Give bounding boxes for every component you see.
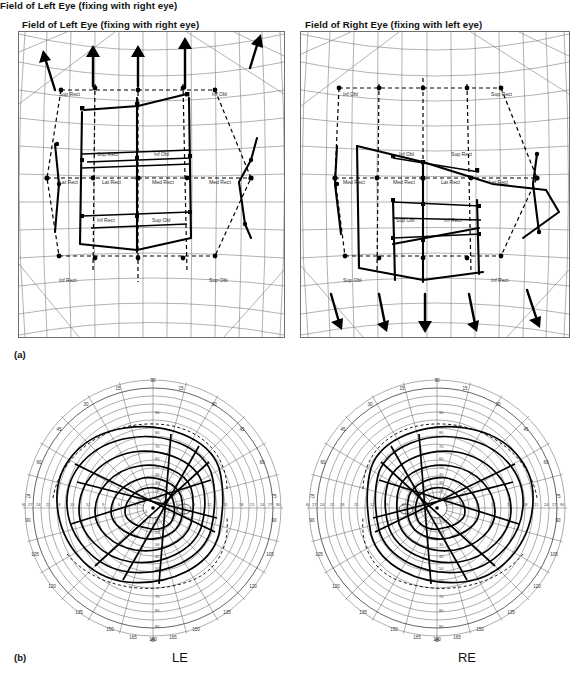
svg-text:6: 6 — [118, 502, 120, 507]
svg-text:75: 75 — [555, 494, 561, 499]
svg-text:75: 75 — [309, 494, 315, 499]
field-left-eye-chart[interactable]: Sup Rect Inf Obl Sup Rect Inf Obl Lat Re… — [18, 31, 285, 338]
svg-text:70: 70 — [439, 444, 444, 449]
svg-text:9: 9 — [193, 502, 195, 507]
svg-text:12: 12 — [491, 502, 495, 507]
svg-text:120: 120 — [533, 584, 541, 589]
polar-chart-right-eye[interactable]: 15 15 30 30 45 45 60 60 75 75 90 90 105 … — [306, 372, 568, 644]
svg-text:21: 21 — [46, 502, 50, 507]
svg-text:Inf Rect: Inf Rect — [491, 277, 509, 283]
panel-b-label: (b) — [14, 652, 26, 663]
svg-text:12: 12 — [207, 502, 211, 507]
svg-text:Lat Rect: Lat Rect — [489, 179, 509, 185]
svg-text:21: 21 — [534, 502, 538, 507]
svg-text:135: 135 — [75, 610, 83, 615]
svg-text:15: 15 — [70, 502, 74, 507]
svg-text:80: 80 — [155, 608, 160, 613]
svg-text:75: 75 — [271, 494, 277, 499]
panel-a-left-title: Field of Left Eye (fixing with right eye… — [0, 0, 177, 11]
svg-text:90: 90 — [276, 502, 281, 507]
svg-text:165: 165 — [129, 635, 137, 640]
svg-text:9: 9 — [102, 502, 104, 507]
svg-text:Lat Rect: Lat Rect — [441, 179, 461, 185]
svg-text:Inf Rect: Inf Rect — [97, 217, 115, 223]
svg-text:120: 120 — [249, 584, 257, 589]
svg-text:90: 90 — [271, 518, 277, 523]
field-left-eye-title: Field of Left Eye (fixing with right eye… — [22, 19, 199, 30]
svg-text:90: 90 — [439, 410, 444, 415]
svg-text:90: 90 — [155, 624, 160, 629]
svg-text:18: 18 — [56, 502, 60, 507]
svg-text:70: 70 — [439, 594, 444, 599]
svg-text:60: 60 — [320, 460, 326, 465]
svg-text:45: 45 — [340, 427, 346, 432]
svg-text:3: 3 — [445, 502, 447, 507]
svg-text:Sup Rect: Sup Rect — [491, 91, 513, 97]
svg-text:Inf Obl: Inf Obl — [154, 151, 169, 157]
svg-text:27: 27 — [28, 502, 32, 507]
svg-text:80: 80 — [155, 430, 160, 435]
svg-text:15: 15 — [178, 386, 184, 391]
svg-text:Sup Obl: Sup Obl — [209, 277, 227, 283]
svg-text:Sup Obl: Sup Obl — [343, 277, 361, 283]
svg-text:Sup Obl: Sup Obl — [152, 217, 170, 223]
svg-text:3: 3 — [134, 502, 136, 507]
svg-text:150: 150 — [106, 627, 114, 632]
svg-text:90: 90 — [560, 502, 565, 507]
svg-text:105: 105 — [550, 552, 558, 557]
svg-text:30: 30 — [439, 542, 444, 547]
svg-text:18: 18 — [239, 502, 243, 507]
svg-text:80: 80 — [439, 430, 444, 435]
svg-text:165: 165 — [413, 635, 421, 640]
svg-text:Med Rect: Med Rect — [152, 179, 174, 185]
svg-text:90: 90 — [309, 518, 315, 523]
svg-text:Inf Obl: Inf Obl — [399, 151, 414, 157]
svg-text:6: 6 — [402, 502, 404, 507]
svg-text:15: 15 — [223, 502, 227, 507]
svg-text:90: 90 — [439, 624, 444, 629]
svg-text:30: 30 — [367, 402, 373, 407]
svg-text:6: 6 — [461, 502, 463, 507]
svg-text:50: 50 — [439, 566, 444, 571]
polar-chart-left-eye[interactable]: 15 15 30 30 45 45 60 60 75 75 90 90 105 … — [22, 372, 284, 644]
svg-text:40: 40 — [439, 554, 444, 559]
svg-text:9: 9 — [386, 502, 388, 507]
svg-text:12: 12 — [370, 502, 374, 507]
svg-text:45: 45 — [239, 427, 245, 432]
svg-text:60: 60 — [36, 460, 42, 465]
svg-text:Sup Rect: Sup Rect — [59, 91, 81, 97]
field-right-eye-chart[interactable]: Inf Obl Sup Rect Inf Obl Sup Rect Med Re… — [300, 31, 570, 338]
svg-text:105: 105 — [266, 552, 274, 557]
svg-text:40: 40 — [155, 472, 160, 477]
theta-symbol-left: Θ — [151, 637, 156, 643]
svg-text:27: 27 — [312, 502, 316, 507]
svg-text:105: 105 — [315, 552, 323, 557]
svg-text:9: 9 — [477, 502, 479, 507]
svg-text:90: 90 — [150, 378, 156, 383]
svg-text:3: 3 — [161, 502, 163, 507]
field-right-eye-title: Field of Right Eye (fixing with left eye… — [305, 19, 482, 30]
left-eye-field-svg: Sup Rect Inf Obl Sup Rect Inf Obl Lat Re… — [19, 32, 284, 337]
svg-text:18: 18 — [340, 502, 344, 507]
svg-text:Inf Rect: Inf Rect — [444, 217, 462, 223]
svg-text:60: 60 — [259, 460, 265, 465]
svg-text:135: 135 — [359, 610, 367, 615]
svg-text:150: 150 — [476, 627, 484, 632]
polar-left-grid — [23, 378, 283, 638]
svg-text:Lat Rect: Lat Rect — [59, 179, 79, 185]
svg-text:45: 45 — [56, 427, 62, 432]
svg-text:24: 24 — [320, 502, 325, 507]
svg-text:90: 90 — [155, 410, 160, 415]
svg-text:80: 80 — [439, 608, 444, 613]
svg-text:40: 40 — [155, 554, 160, 559]
svg-text:21: 21 — [330, 502, 334, 507]
svg-text:21: 21 — [250, 502, 254, 507]
svg-text:Sup Obl: Sup Obl — [396, 217, 414, 223]
svg-text:70: 70 — [155, 444, 160, 449]
svg-text:Sup Rect: Sup Rect — [451, 151, 473, 157]
svg-text:135: 135 — [223, 610, 231, 615]
svg-text:Sup Rect: Sup Rect — [97, 151, 119, 157]
svg-text:Med Rect: Med Rect — [343, 179, 365, 185]
svg-text:90: 90 — [555, 518, 561, 523]
svg-text:Med Rect: Med Rect — [393, 179, 415, 185]
